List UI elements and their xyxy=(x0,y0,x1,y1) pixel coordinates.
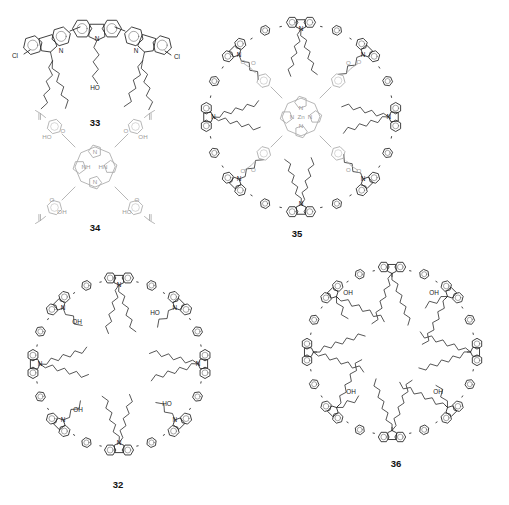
compound-number-32: 32 xyxy=(113,479,124,490)
hydroxyl-label: OH xyxy=(429,289,439,296)
nitrogen-label: N xyxy=(290,113,294,120)
nitrogen-label: N xyxy=(361,51,366,58)
hydroxyl-label: HO xyxy=(90,84,100,91)
nitrogen-label: N xyxy=(211,113,216,120)
nitrogen-label: N xyxy=(196,360,201,367)
compound-number-34: 34 xyxy=(90,222,101,233)
nitrogen-label: N xyxy=(117,439,122,446)
nitrogen-label: N xyxy=(93,178,97,185)
oxygen-label: O xyxy=(61,127,66,134)
oxygen-label: O xyxy=(357,58,362,65)
oxygen-label: O xyxy=(241,58,246,65)
nitrogen-label: N xyxy=(299,122,303,129)
oxygen-label: O xyxy=(251,166,256,173)
hydroxyl-label: OH xyxy=(346,388,356,395)
structure-canvas: ClNNNClHO HOOOOHNNHHNNOOHOHO NNNNNNNNZnN… xyxy=(0,0,509,505)
nitrogen-label: N xyxy=(59,47,64,54)
nitrogen-label: N xyxy=(61,304,66,311)
compound-number-33: 33 xyxy=(90,117,101,128)
hydroxyl-label: OH xyxy=(73,406,83,413)
chemical-structures-figure: ClNNNClHO HOOOOHNNHHNNOOHOHO NNNNNNNNZnN… xyxy=(0,0,509,505)
oxygen-label: O xyxy=(135,196,140,203)
oxygen-label: OH xyxy=(138,133,147,140)
chlorine-label: Cl xyxy=(174,53,180,60)
nitrogen-label: N xyxy=(93,148,97,155)
nitrogen-label: N xyxy=(95,35,100,42)
hydroxyl-label: OH xyxy=(433,388,443,395)
chlorine-label: Cl xyxy=(12,52,18,59)
nitrogen-label: N xyxy=(173,416,178,423)
nitrogen-label: N xyxy=(308,113,312,120)
oxygen-label: O xyxy=(50,196,55,203)
oxygen-label: OH xyxy=(57,208,66,215)
oxygen-label: O xyxy=(346,166,351,173)
oxygen-label: O xyxy=(251,59,256,66)
hydroxyl-label: HO xyxy=(162,400,172,407)
zinc-label: Zn xyxy=(297,113,305,120)
nitrogen-label: N xyxy=(61,416,66,423)
nitrogen-label: NH xyxy=(82,163,91,170)
oxygen-label: HO xyxy=(42,133,51,140)
nitrogen-label: N xyxy=(117,281,122,288)
compound-number-35: 35 xyxy=(292,228,303,239)
hydroxyl-label: OH xyxy=(72,318,82,325)
oxygen-label: O xyxy=(346,59,351,66)
nitrogen-label: N xyxy=(134,47,139,54)
oxygen-label: O xyxy=(357,167,362,174)
oxygen-label: O xyxy=(241,167,246,174)
nitrogen-label: N xyxy=(237,51,242,58)
nitrogen-label: N xyxy=(361,175,366,182)
nitrogen-label: N xyxy=(38,360,43,367)
nitrogen-label: N xyxy=(237,175,242,182)
nitrogen-label: N xyxy=(386,113,391,120)
hydroxyl-label: OH xyxy=(343,289,353,296)
compound-number-36: 36 xyxy=(391,458,402,469)
nitrogen-label: N xyxy=(173,304,178,311)
nitrogen-label: N xyxy=(299,25,304,32)
nitrogen-label: HN xyxy=(99,163,108,170)
nitrogen-label: N xyxy=(299,104,303,111)
figure-background xyxy=(0,0,509,505)
nitrogen-label: N xyxy=(299,200,304,207)
oxygen-label: O xyxy=(124,127,129,134)
hydroxyl-label: HO xyxy=(150,309,160,316)
oxygen-label: HO xyxy=(122,208,131,215)
